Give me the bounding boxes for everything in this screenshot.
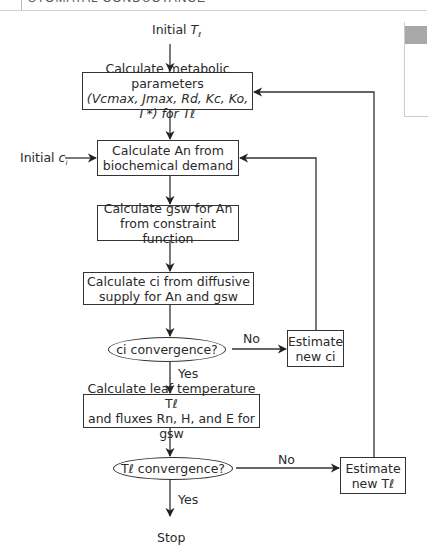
box-line: (Vcmax, Jmax, Rd, Kc, Ko, Γ*) for Tℓ — [83, 91, 252, 121]
box-line: from constraint function — [98, 216, 238, 246]
box-line: Calculate metabolic parameters — [83, 61, 252, 91]
decision-text: ci convergence? — [116, 342, 218, 357]
box-line: Calculate leaf temperature Tℓ — [84, 381, 259, 411]
no-label-t: No — [278, 452, 295, 467]
decision-text: Tℓ convergence? — [121, 461, 225, 476]
box-line: Estimate — [345, 461, 400, 476]
calculate-gsw-box: Calculate gsw for An from constraint fun… — [97, 205, 239, 241]
leaf-temperature-box: Calculate leaf temperature Tℓ and fluxes… — [83, 394, 260, 428]
box-line: Calculate ci from diffusive — [87, 274, 250, 289]
start-label: Initial Tℓ — [152, 22, 201, 39]
calculate-an-box: Calculate An from biochemical demand — [97, 140, 239, 176]
metabolic-parameters-box: Calculate metabolic parameters (Vcmax, J… — [82, 72, 253, 110]
box-line: Calculate gsw for An — [104, 201, 233, 216]
estimate-t-box: Estimate new Tℓ — [340, 457, 406, 494]
stop-label: Stop — [157, 530, 185, 545]
initial-ci-label: Initial ci — [20, 150, 67, 167]
box-line: biochemical demand — [103, 158, 234, 173]
yes-label-t: Yes — [178, 492, 198, 507]
box-line: new Tℓ — [352, 476, 395, 491]
box-line: Calculate An from — [112, 143, 224, 158]
box-line: Estimate — [288, 334, 343, 349]
box-line: supply for An and gsw — [99, 289, 238, 304]
estimate-ci-box: Estimate new ci — [287, 330, 344, 367]
box-line: new ci — [295, 349, 335, 364]
calculate-ci-box: Calculate ci from diffusive supply for A… — [83, 272, 254, 305]
no-label-ci: No — [243, 331, 260, 346]
yes-label-ci: Yes — [178, 366, 198, 381]
ci-convergence-decision: ci convergence? — [108, 337, 226, 362]
t-convergence-decision: Tℓ convergence? — [113, 457, 233, 480]
box-line: and fluxes Rn, H, and E for gsw — [84, 411, 259, 441]
